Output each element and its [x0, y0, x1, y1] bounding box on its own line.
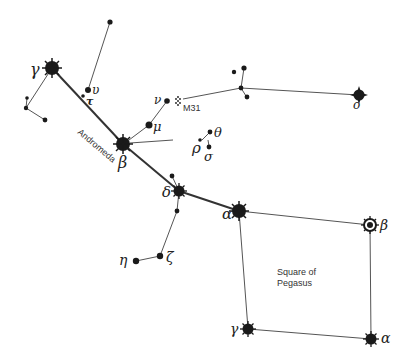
star-group-c-icon: [239, 86, 244, 91]
star-group-a-icon: [232, 70, 236, 74]
star-beta-and-icon: [113, 134, 133, 154]
label-gamma-peg: γ: [230, 321, 239, 337]
label-omicron: ο: [353, 98, 360, 112]
m31-galaxy-icon: [175, 96, 181, 106]
star-left-top-icon: [25, 96, 29, 100]
label-beta-and: β: [117, 153, 127, 172]
line-betapeg-alphapeg: [370, 225, 371, 339]
stars: [24, 19, 379, 347]
line-alpha-betapeg: [239, 211, 370, 225]
star-group-d-icon: [245, 95, 250, 100]
label-delta-and: δ: [162, 183, 171, 201]
label-tau: τ: [86, 95, 94, 108]
label-alpha-and: α: [222, 205, 232, 223]
label-m31: M31: [183, 103, 201, 113]
line-m31-group: [183, 88, 241, 99]
line-gammapeg-alpha: [239, 211, 248, 329]
star-mu-icon: [146, 122, 153, 129]
star-delta-up-icon: [170, 174, 175, 179]
star-delta-down-icon: [175, 209, 180, 214]
line-top-upsilon: [88, 22, 110, 90]
star-gamma-peg-icon: [240, 321, 256, 337]
star-beta-peg-icon: [361, 216, 379, 234]
star-group-b-icon: [241, 65, 246, 70]
star-alpha-peg-icon: [363, 331, 379, 347]
label-sigma: σ: [204, 149, 214, 164]
line-group-up: [241, 68, 244, 88]
star-left-mid-icon: [24, 106, 28, 110]
label-square-line1: Square of: [277, 267, 317, 277]
star-theta-icon: [208, 130, 213, 135]
star-nu-icon: [164, 98, 170, 104]
line-rho-theta: [202, 133, 209, 140]
star-gamma-and-icon: [42, 58, 62, 78]
constellation-lines: [26, 22, 371, 339]
line-group-omicron: [241, 88, 359, 95]
star-zeta-icon: [157, 253, 163, 259]
star-tau-icon: [81, 94, 85, 98]
label-zeta: ζ: [166, 249, 175, 265]
label-beta-peg: β: [379, 217, 388, 233]
label-square-line2: Pegasus: [277, 278, 313, 288]
label-alpha-peg: α: [381, 330, 391, 346]
star-upsilon-icon: [85, 87, 91, 93]
label-theta: θ: [214, 125, 222, 140]
star-top-icon: [107, 19, 112, 24]
line-beta-east: [130, 140, 173, 143]
line-zeta-eta: [136, 256, 160, 261]
line-beta-mu: [129, 125, 149, 140]
label-gamma-and: γ: [30, 60, 40, 79]
line-alphapeg-gammapeg: [248, 329, 371, 339]
label-nu: ν: [154, 93, 161, 107]
star-chart: γ β δ α β α γ υ τ ν μ ρ θ σ ο η ζ M31 An…: [0, 0, 410, 361]
star-left-bottom-icon: [43, 118, 48, 123]
label-mu: μ: [153, 119, 161, 134]
label-eta: η: [119, 252, 128, 268]
label-rho: ρ: [191, 139, 201, 157]
line-left-branch: [26, 108, 45, 120]
star-eta-icon: [133, 258, 139, 264]
